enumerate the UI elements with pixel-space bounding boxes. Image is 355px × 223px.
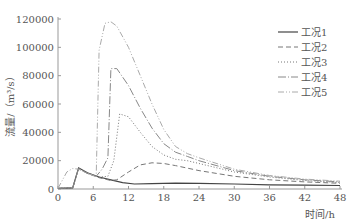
legend-label: 工况2 <box>301 42 327 53</box>
y-tick-label: 120000 <box>16 14 54 25</box>
x-tick-label: 0 <box>55 192 61 203</box>
legend-label: 工况5 <box>301 87 327 98</box>
series-line-2 <box>58 163 340 189</box>
y-tick-label: 60000 <box>22 99 54 110</box>
x-tick-label: 36 <box>263 192 276 203</box>
x-tick-label: 48 <box>334 192 347 203</box>
legend: 工况1工况2工况3工况4工况5 <box>278 27 327 98</box>
x-tick-label: 30 <box>228 192 241 203</box>
y-tick-label: 0 <box>48 184 54 195</box>
y-tick-label: 40000 <box>22 127 54 138</box>
x-tick-label: 6 <box>90 192 96 203</box>
legend-label: 工况4 <box>301 72 327 83</box>
x-tick-label: 18 <box>157 192 170 203</box>
x-tick-label: 12 <box>122 192 135 203</box>
y-tick-label: 80000 <box>22 70 54 81</box>
x-tick-label: 42 <box>298 192 311 203</box>
legend-label: 工况3 <box>301 57 327 68</box>
y-axis-label: 流量/（m³/s） <box>4 71 16 136</box>
y-tick-label: 100000 <box>16 42 54 53</box>
line-chart: 0612182430364248020000400006000080000100… <box>0 0 355 223</box>
x-axis-label: 时间/h <box>305 208 335 220</box>
y-tick-label: 20000 <box>22 155 54 166</box>
x-tick-label: 24 <box>193 192 206 203</box>
legend-label: 工况1 <box>301 27 327 38</box>
